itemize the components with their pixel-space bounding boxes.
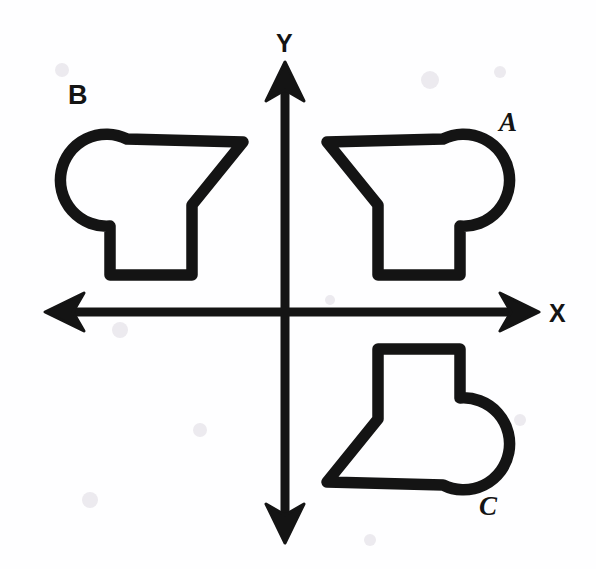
shape-b-label: B [68, 80, 88, 110]
shape-c-label: C [479, 491, 498, 521]
figure-canvas: Y X A B C [0, 0, 596, 569]
shape-a-label: A [497, 107, 517, 137]
y-axis-label: Y [276, 29, 293, 57]
y-axis [266, 62, 304, 543]
shape-a-outline [327, 134, 510, 275]
shape-b-outline [60, 134, 243, 275]
coordinate-plane-figure: Y X A B C [0, 0, 596, 569]
x-axis-label: X [549, 299, 566, 327]
shape-c-outline [327, 349, 510, 490]
